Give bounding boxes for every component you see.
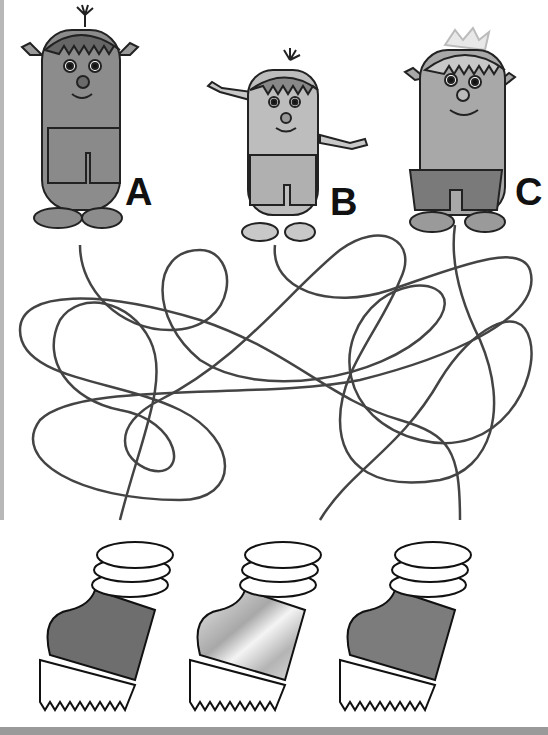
puzzle-page: A B [0,0,548,735]
character-a[interactable] [22,5,138,228]
boot-3[interactable] [340,542,471,710]
boot-2[interactable] [190,542,321,710]
illustration: A B [0,0,548,735]
boot-1[interactable] [40,542,173,710]
page-footer-band [0,727,548,735]
label-b: B [330,181,357,223]
character-c[interactable] [405,28,515,232]
tangled-lines[interactable] [20,225,532,520]
label-a: A [125,171,152,213]
label-c: C [515,171,542,213]
